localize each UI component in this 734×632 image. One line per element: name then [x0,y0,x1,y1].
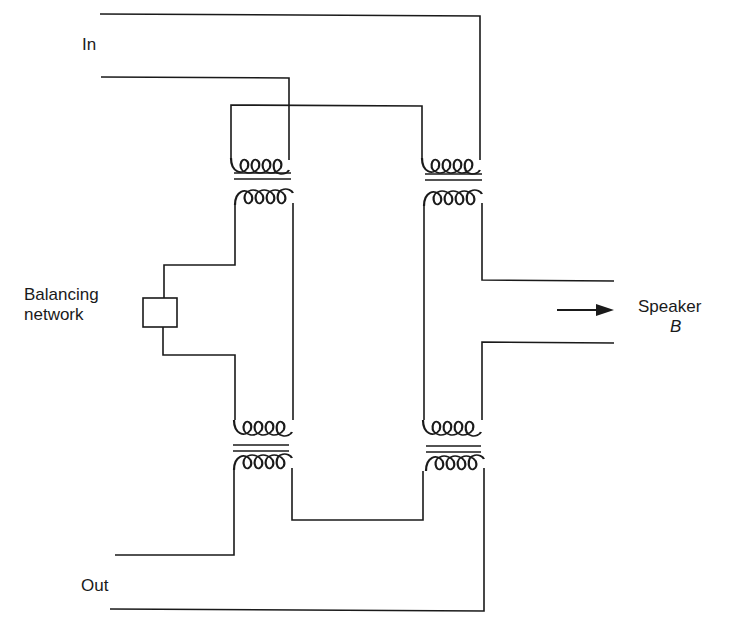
label-in: In [82,34,96,55]
label-out: Out [81,575,108,596]
input-wires [100,14,480,160]
primary-coil [231,158,289,174]
speaker-loop [424,203,614,420]
lower-coil [426,455,484,471]
arrow-right-icon [557,304,614,316]
secondary-coil [235,189,293,205]
transformer-top-right [422,158,482,206]
label-speaker: Speaker [638,296,701,317]
hybrid-transformer-circuit [0,0,734,632]
label-speaker-b: B [670,316,681,337]
lower-coil [234,454,292,470]
secondary-coil [424,190,482,206]
balancing-network-loop [143,203,293,420]
label-balancing-network-line2: network [24,304,84,325]
transformer-top-left [231,158,293,205]
balancing-network-box [143,298,177,327]
transformer-bottom-right [423,420,484,471]
transformer-bottom-left [233,420,292,470]
upper-coil [234,420,292,436]
upper-coil [423,420,481,436]
output-wires [110,468,484,611]
primary-coil [422,158,480,174]
label-balancing-network-line1: Balancing [24,284,99,305]
